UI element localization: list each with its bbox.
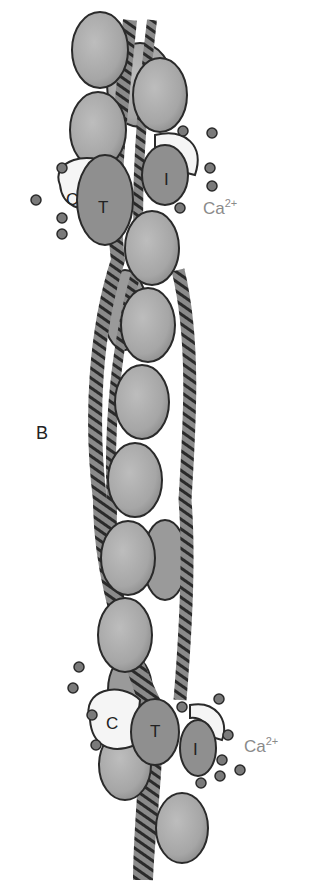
label-calcium-bottom: Ca2+ bbox=[244, 735, 278, 757]
label-tni-top: I bbox=[164, 170, 169, 190]
label-tnt-bottom: T bbox=[150, 722, 160, 742]
label-tnc-bottom: C bbox=[106, 714, 118, 734]
label-tni-bottom: I bbox=[193, 740, 198, 760]
label-calcium-top: Ca2+ bbox=[203, 197, 237, 219]
label-tnc-top: C bbox=[66, 190, 78, 210]
label-tnt-top: T bbox=[98, 198, 108, 218]
panel-label: B bbox=[36, 423, 48, 444]
